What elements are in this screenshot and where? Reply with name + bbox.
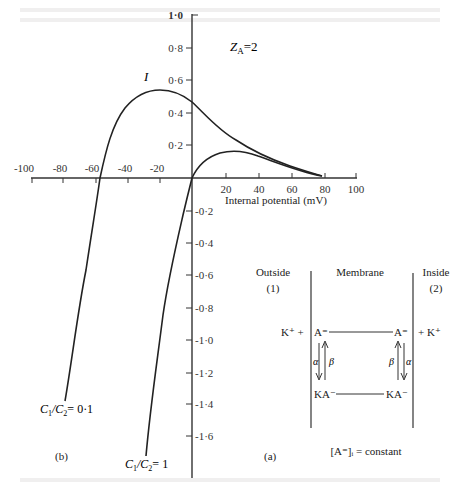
svg-text:-0·6: -0·6: [195, 269, 214, 281]
svg-text:-100: -100: [14, 162, 35, 174]
x-axis-title: Internal potential (mV): [225, 194, 327, 207]
membrane-diagram: Outside (1) Membrane Inside (2) K⁺ + A⁼ …: [256, 266, 450, 463]
y-axis-label-i: I: [143, 69, 149, 84]
svg-text:-20: -20: [150, 162, 165, 174]
y-tick-labels-positive: 1·0 0·8 0·6 0·4 0·2: [168, 9, 183, 151]
svg-text:0·6: 0·6: [168, 74, 183, 86]
constant-note: [A⁼]ᵢ = constant: [330, 445, 401, 457]
a-right: A⁼: [394, 326, 408, 338]
membrane-label: Membrane: [336, 266, 384, 278]
a-left: A⁼: [314, 326, 328, 338]
svg-text:-1·2: -1·2: [195, 367, 213, 379]
ka-left: KA⁻: [314, 388, 336, 400]
alpha-right: α: [406, 356, 412, 367]
alpha-left: α: [313, 356, 319, 367]
inside-label: Inside: [423, 266, 450, 278]
za-annotation: ZA=2: [230, 39, 258, 56]
y-tick-labels-negative: -0·2 -0·4 -0·6 -0·8 -1·0 -1·2 -1·4 -1·6: [195, 205, 214, 442]
svg-text:-60: -60: [85, 162, 100, 174]
curve-label-1: C1/C2= 1: [125, 457, 168, 473]
y-ticks-negative: [186, 211, 192, 436]
beta-left: β: [328, 356, 334, 367]
svg-text:0·8: 0·8: [168, 42, 183, 54]
beta-right: β: [388, 356, 394, 367]
svg-text:100: 100: [348, 183, 365, 195]
svg-text:-0·4: -0·4: [195, 237, 214, 249]
panel-label-b: (b): [55, 450, 68, 463]
svg-text:0·4: 0·4: [168, 107, 183, 119]
k-plus-right: + K⁺: [418, 326, 441, 338]
panel-label-a: (a): [264, 450, 277, 463]
svg-text:-0·2: -0·2: [195, 205, 213, 217]
svg-text:-40: -40: [118, 162, 133, 174]
svg-text:0·2: 0·2: [168, 139, 183, 151]
outside-label: Outside: [256, 266, 290, 278]
ka-right: KA⁻: [386, 388, 408, 400]
curve-label-0-1: C1/C2= 0·1: [40, 402, 93, 418]
svg-text:-1·0: -1·0: [195, 334, 214, 346]
svg-text:-0·8: -0·8: [195, 302, 214, 314]
svg-text:-1·4: -1·4: [195, 398, 214, 410]
svg-text:1·0: 1·0: [168, 9, 183, 21]
chart-figure: 1·0 0·8 0·6 0·4 0·2 -0·2 -0·4 -0·6 -0·8 …: [0, 0, 461, 488]
k-plus-left: K⁺ +: [281, 326, 304, 338]
curve-c1c2-0-1: [65, 90, 322, 401]
svg-text:-1·6: -1·6: [195, 430, 214, 442]
inside-number: (2): [430, 282, 443, 295]
svg-text:-80: -80: [53, 162, 68, 174]
outside-number: (1): [267, 282, 280, 295]
